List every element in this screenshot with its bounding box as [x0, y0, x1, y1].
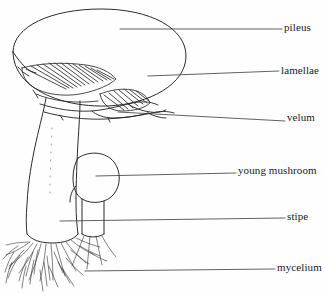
pileus-shape	[13, 9, 186, 106]
label-young-mushroom: young mushroom	[238, 165, 317, 176]
label-lamellae: lamellae	[281, 65, 319, 76]
leader-line-stipe	[60, 218, 285, 221]
leader-line-velum	[118, 112, 285, 121]
leader-line-mycelium	[85, 269, 275, 271]
label-mycelium: mycelium	[277, 262, 322, 273]
mushroom-illustration	[0, 0, 326, 294]
ground-line	[6, 242, 29, 245]
leader-line-young-mushroom	[96, 173, 236, 176]
stipe-shape	[26, 98, 80, 243]
label-velum: velum	[287, 112, 315, 123]
label-stipe: stipe	[287, 211, 308, 222]
mushroom-diagram: pileus lamellae velum young mushroom sti…	[0, 0, 326, 294]
mycelium-shape	[3, 236, 116, 291]
leader-line-lamellae	[148, 71, 279, 76]
leader-lines	[60, 29, 285, 271]
velum-shape	[40, 102, 174, 122]
label-pileus: pileus	[284, 22, 311, 33]
